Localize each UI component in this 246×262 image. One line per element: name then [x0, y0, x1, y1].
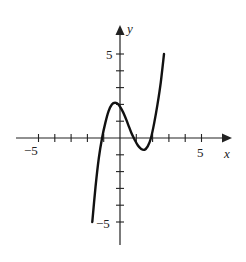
y-axis-label: y [125, 21, 133, 36]
y-tick-label-5: 5 [106, 47, 113, 62]
x-tick-label-5: 5 [197, 145, 204, 160]
x-tick-label-neg5: −5 [24, 143, 38, 158]
x-axis-label: x [223, 146, 230, 161]
axes [16, 32, 226, 245]
y-tick-label-neg5: −5 [96, 216, 110, 231]
y-axis-arrow-icon [116, 25, 125, 35]
x-axis-arrow-icon [222, 134, 232, 143]
function-graph: x y −5 5 5 −5 [0, 0, 246, 262]
